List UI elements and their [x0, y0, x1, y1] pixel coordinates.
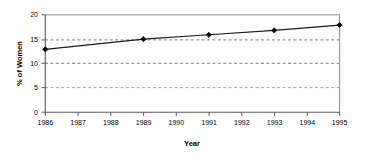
- x-tick-label-1990: 1990: [169, 119, 185, 126]
- y-tick-label-5: 5: [34, 84, 38, 91]
- x-tick-label-1988: 1988: [103, 119, 119, 126]
- y-tick-label-15: 15: [30, 36, 38, 43]
- y-axis-title: % of Women: [15, 41, 24, 86]
- x-tick-label-1994: 1994: [300, 119, 316, 126]
- chart-canvas: 0 5 10 15 20 1986 1987 1988 1989 1990: [0, 0, 366, 156]
- x-tick-label-1986: 1986: [38, 119, 54, 126]
- y-tick-label-20: 20: [30, 11, 38, 18]
- line-chart: 0 5 10 15 20 1986 1987 1988 1989 1990: [0, 0, 366, 156]
- x-axis-ticks: [45, 112, 339, 116]
- y-tick-label-10: 10: [30, 60, 38, 67]
- x-tick-label-1993: 1993: [267, 119, 283, 126]
- x-tick-label-1987: 1987: [70, 119, 86, 126]
- y-axis-tick-labels: 0 5 10 15 20: [30, 11, 38, 115]
- x-tick-label-1995: 1995: [332, 119, 348, 126]
- x-tick-label-1991: 1991: [201, 119, 217, 126]
- x-tick-label-1989: 1989: [136, 119, 152, 126]
- x-axis-title: Year: [184, 139, 200, 148]
- x-axis-tick-labels: 1986 1987 1988 1989 1990 1991 1992 1993 …: [38, 119, 348, 126]
- y-tick-label-0: 0: [34, 109, 38, 116]
- y-axis-ticks: [42, 15, 46, 112]
- x-tick-label-1992: 1992: [234, 119, 250, 126]
